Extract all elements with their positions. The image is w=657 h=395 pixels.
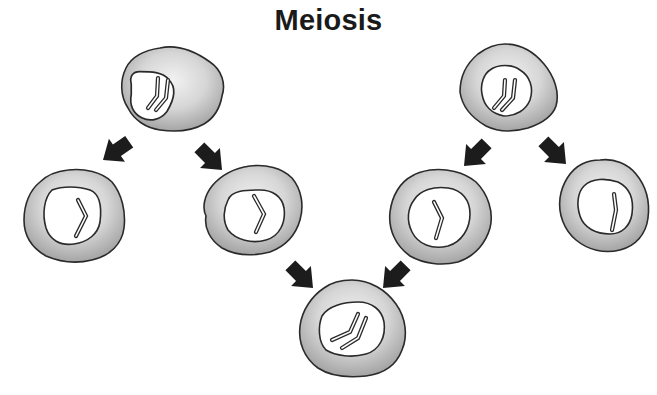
meiosis-diagram — [0, 0, 657, 395]
nucleus — [481, 66, 531, 117]
zygote-cell — [300, 280, 406, 377]
arrow-parent-left-to-gamete-1 — [95, 130, 137, 171]
arrow-parent-right-to-gamete-3 — [454, 133, 496, 175]
gamete-cell-4 — [560, 160, 649, 252]
arrow-parent-right-to-gamete-4 — [533, 131, 575, 173]
nucleus — [578, 179, 633, 234]
parent-cell-right — [460, 44, 557, 131]
gamete-cell-1 — [24, 170, 125, 263]
gamete-cell-2 — [204, 166, 302, 255]
nucleus — [44, 187, 101, 244]
parent-cell-left — [122, 47, 224, 131]
gamete-cell-3 — [390, 170, 492, 265]
nucleus — [408, 188, 470, 248]
arrow-gamete-2-to-zygote — [280, 255, 322, 297]
